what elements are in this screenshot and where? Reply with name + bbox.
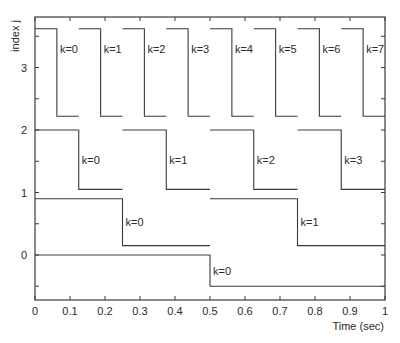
k-label: k=2 bbox=[147, 43, 165, 55]
x-tick-label: 0.4 bbox=[167, 305, 182, 317]
k-label: k=0 bbox=[60, 43, 78, 55]
wavelet-j2-k3 bbox=[298, 130, 386, 189]
k-label: k=1 bbox=[104, 43, 122, 55]
y-axis: 0123 bbox=[21, 36, 385, 286]
k-label: k=6 bbox=[322, 43, 340, 55]
k-label: k=1 bbox=[301, 216, 319, 228]
k-label: k=0 bbox=[213, 265, 231, 277]
k-label: k=1 bbox=[169, 154, 187, 166]
x-tick-label: 0.7 bbox=[272, 305, 287, 317]
wavelet-j1-k0 bbox=[35, 199, 210, 246]
k-label: k=5 bbox=[279, 43, 297, 55]
k-label: k=3 bbox=[191, 43, 209, 55]
x-tick-label: 0.2 bbox=[97, 305, 112, 317]
k-label: k=0 bbox=[126, 216, 144, 228]
k-label: k=3 bbox=[344, 154, 362, 166]
y-tick-label: 2 bbox=[21, 124, 27, 136]
k-labels: k=0k=1k=2k=3k=4k=5k=6k=7k=0k=1k=2k=3k=0k… bbox=[60, 43, 384, 277]
x-tick-label: 0.6 bbox=[237, 305, 252, 317]
wavelet-j2-k2 bbox=[210, 130, 298, 189]
x-axis-title: Time (sec) bbox=[332, 320, 384, 332]
x-tick-label: 1 bbox=[382, 305, 388, 317]
y-axis-title: index j bbox=[9, 20, 21, 52]
k-label: k=2 bbox=[257, 154, 275, 166]
x-tick-label: 0.1 bbox=[62, 305, 77, 317]
y-tick-label: 0 bbox=[21, 249, 27, 261]
wavelet-j2-k0 bbox=[35, 130, 123, 189]
x-tick-label: 0 bbox=[32, 305, 38, 317]
x-tick-label: 0.5 bbox=[202, 305, 217, 317]
k-label: k=4 bbox=[235, 43, 253, 55]
x-tick-label: 0.3 bbox=[132, 305, 147, 317]
wavelet-j1-k1 bbox=[210, 199, 385, 246]
y-tick-label: 1 bbox=[21, 187, 27, 199]
x-tick-label: 0.8 bbox=[307, 305, 322, 317]
haar-wavelet-diagram: 00.10.20.30.40.50.60.70.80.91 0123 k=0k=… bbox=[0, 0, 400, 343]
x-tick-label: 0.9 bbox=[342, 305, 357, 317]
wavelet-j2-k1 bbox=[123, 130, 211, 189]
k-label: k=7 bbox=[366, 43, 384, 55]
y-tick-label: 3 bbox=[21, 62, 27, 74]
k-label: k=0 bbox=[82, 154, 100, 166]
wavelet-j0-k0 bbox=[35, 255, 385, 286]
